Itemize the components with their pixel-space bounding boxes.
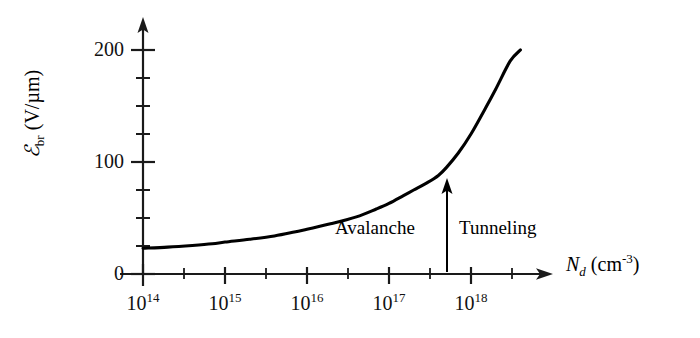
x-tick-label-1e16: 1016 [277, 292, 337, 315]
x-axis-units-close: ) [633, 253, 640, 275]
x-axis-symbol: N [566, 253, 579, 275]
y-tick-label-0: 0 [52, 262, 124, 285]
x-axis-units-open: (cm [591, 253, 622, 275]
x-axis-units-exponent: -3 [622, 251, 633, 266]
x-tick-label-1e17: 1017 [359, 292, 419, 315]
x-tick-exponent: 15 [229, 290, 242, 305]
avalanche-region-label: Avalanche [335, 217, 415, 239]
y-axis-symbol-subscript: br [32, 135, 47, 146]
x-axis [120, 268, 553, 279]
tunneling-region-label: Tunneling [459, 217, 536, 239]
x-tick-mantissa: 10 [291, 292, 311, 314]
y-axis-title: ℰbr (V/µm) [20, 38, 44, 190]
y-tick-label-200: 200 [52, 38, 124, 61]
y-axis-symbol: ℰ [21, 146, 43, 158]
x-tick-mantissa: 10 [209, 292, 229, 314]
y-axis-units: (V/µm) [21, 70, 43, 130]
x-tick-exponent: 14 [147, 290, 160, 305]
y-tick-label-100: 100 [52, 150, 124, 173]
x-tick-label-1e14: 1014 [113, 292, 173, 315]
region-divider-arrow [442, 178, 453, 272]
x-tick-mantissa: 10 [127, 292, 147, 314]
x-tick-label-1e18: 1018 [441, 292, 501, 315]
x-tick-exponent: 16 [311, 290, 324, 305]
x-tick-label-1e15: 1015 [195, 292, 255, 315]
y-axis [138, 17, 149, 274]
x-tick-exponent: 17 [393, 290, 406, 305]
x-axis-symbol-subscript: d [579, 264, 586, 279]
x-tick-exponent: 18 [475, 290, 488, 305]
x-tick-mantissa: 10 [455, 292, 475, 314]
x-axis-title: Nd (cm-3) [566, 253, 639, 276]
breakdown-field-chart: 200 100 0 1014 1015 1016 1017 1018 ℰbr (… [0, 0, 700, 338]
x-tick-mantissa: 10 [373, 292, 393, 314]
